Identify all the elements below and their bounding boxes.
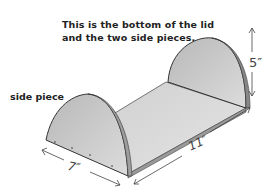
left-side-piece: [46, 94, 132, 176]
caption-line-1: This is the bottom of the lid: [62, 18, 214, 31]
height-dimension-label: 5″: [249, 55, 262, 70]
caption: This is the bottom of the lid and the tw…: [62, 18, 214, 44]
caption-line-2: and the two side pieces.: [62, 31, 214, 44]
side-piece-label: side piece: [10, 91, 64, 102]
